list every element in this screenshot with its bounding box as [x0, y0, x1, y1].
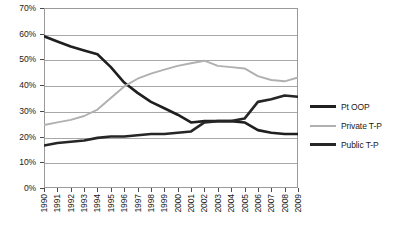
- legend-item-private-tp: Private T-P: [310, 118, 398, 133]
- x-tick-mark: [298, 188, 299, 192]
- series-line: [44, 36, 298, 134]
- x-tick-label: 1994: [92, 194, 102, 213]
- x-tick-mark: [111, 188, 112, 192]
- x-tick-label: 2004: [226, 194, 236, 213]
- line-chart: 70%60%50%40%30%20%10%0% 1990199119921993…: [0, 0, 398, 237]
- legend-swatch-icon: [310, 143, 336, 146]
- x-tick-mark: [164, 188, 165, 192]
- x-tick-mark: [191, 188, 192, 192]
- y-tick-label: 0%: [24, 183, 36, 193]
- series-line: [44, 61, 298, 125]
- x-tick-label: 2001: [186, 194, 196, 213]
- x-tick-label: 2008: [280, 194, 290, 213]
- x-tick-mark: [84, 188, 85, 192]
- x-tick-label: 1997: [133, 194, 143, 213]
- x-tick-label: 1992: [66, 194, 76, 213]
- x-tick-label: 1998: [146, 194, 156, 213]
- y-tick-label: 40%: [19, 80, 36, 90]
- x-tick-mark: [204, 188, 205, 192]
- x-tick-mark: [231, 188, 232, 192]
- chart-legend: Pt OOP Private T-P Public T-P: [310, 99, 398, 156]
- legend-item-public-tp: Public T-P: [310, 137, 398, 152]
- x-tick-label: 1993: [79, 194, 89, 213]
- x-tick-mark: [138, 188, 139, 192]
- x-tick-mark: [285, 188, 286, 192]
- x-tick-label: 1990: [39, 194, 49, 213]
- x-tick-mark: [57, 188, 58, 192]
- x-tick-label: 1995: [106, 194, 116, 213]
- x-tick-label: 2005: [240, 194, 250, 213]
- y-tick-label: 50%: [19, 54, 36, 64]
- legend-swatch-icon: [310, 125, 336, 127]
- y-tick-label: 60%: [19, 29, 36, 39]
- x-tick-label: 2000: [173, 194, 183, 213]
- x-tick-label: 2002: [199, 194, 209, 213]
- x-tick-mark: [218, 188, 219, 192]
- x-tick-label: 1999: [159, 194, 169, 213]
- legend-item-pt-oop: Pt OOP: [310, 99, 398, 114]
- x-tick-label: 1991: [52, 194, 62, 213]
- series-layer: [44, 8, 298, 188]
- x-tick-mark: [271, 188, 272, 192]
- y-tick-label: 70%: [19, 3, 36, 13]
- x-tick-label: 2003: [213, 194, 223, 213]
- x-tick-label: 1996: [119, 194, 129, 213]
- x-tick-mark: [178, 188, 179, 192]
- legend-swatch-icon: [310, 105, 336, 108]
- x-tick-mark: [151, 188, 152, 192]
- x-tick-label: 2009: [293, 194, 303, 213]
- x-axis: 1990199119921993199419951996199719981999…: [44, 188, 298, 237]
- legend-label: Pt OOP: [341, 102, 370, 112]
- legend-label: Private T-P: [341, 121, 382, 131]
- x-tick-mark: [245, 188, 246, 192]
- x-tick-mark: [97, 188, 98, 192]
- y-tick-label: 30%: [19, 106, 36, 116]
- x-tick-mark: [258, 188, 259, 192]
- legend-label: Public T-P: [341, 140, 379, 150]
- y-axis: 70%60%50%40%30%20%10%0%: [0, 0, 44, 196]
- x-tick-label: 2006: [253, 194, 263, 213]
- series-line: [44, 95, 298, 145]
- y-tick-label: 20%: [19, 132, 36, 142]
- x-tick-mark: [71, 188, 72, 192]
- y-tick-label: 10%: [19, 157, 36, 167]
- x-tick-mark: [44, 188, 45, 192]
- x-tick-label: 2007: [266, 194, 276, 213]
- x-tick-mark: [124, 188, 125, 192]
